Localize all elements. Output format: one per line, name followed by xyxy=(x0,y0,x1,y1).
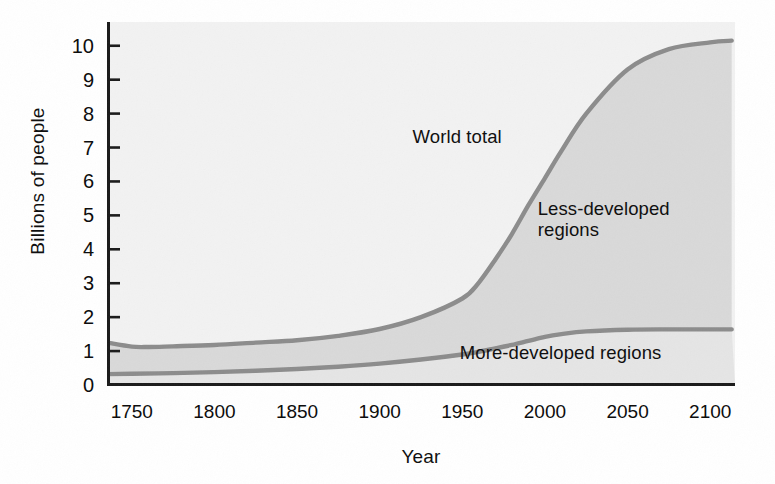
x-axis-tick-label: 2100 xyxy=(675,402,745,421)
annotation-more-developed-regions: More-developed regions xyxy=(460,342,662,363)
y-axis-title: Billions of people xyxy=(27,61,49,301)
y-axis-tick-label: 7 xyxy=(58,138,94,158)
x-axis-tick-label: 1850 xyxy=(262,402,332,421)
x-axis-tick-label: 2000 xyxy=(510,402,580,421)
y-axis-tick-label: 2 xyxy=(58,307,94,327)
y-axis-tick-label: 9 xyxy=(58,70,94,90)
y-axis-tick-label: 10 xyxy=(58,36,94,56)
population-growth-chart-figure: 012345678910 175018001850190019502000205… xyxy=(0,0,775,484)
x-axis-tick-label: 1900 xyxy=(345,402,415,421)
y-axis-tick-label: 1 xyxy=(58,341,94,361)
y-axis-tick-label: 3 xyxy=(58,273,94,293)
y-axis-tick-label: 8 xyxy=(58,104,94,124)
x-axis-tick-label: 1800 xyxy=(179,402,249,421)
x-axis-title: Year xyxy=(107,446,735,468)
y-axis-tick-label: 6 xyxy=(58,171,94,191)
x-axis-tick-label: 1950 xyxy=(427,402,497,421)
y-axis-tick-label: 5 xyxy=(58,205,94,225)
x-axis-tick-label: 2050 xyxy=(593,402,663,421)
x-axis-tick-label: 1750 xyxy=(97,402,167,421)
annotation-world-total: World total xyxy=(413,126,502,147)
y-axis-tick-label: 4 xyxy=(58,239,94,259)
y-axis-tick-label: 0 xyxy=(58,375,94,395)
annotation-less-developed-regions: Less-developed regions xyxy=(538,198,670,241)
